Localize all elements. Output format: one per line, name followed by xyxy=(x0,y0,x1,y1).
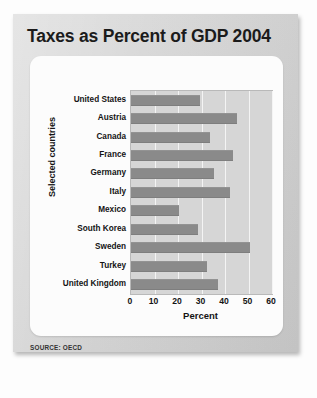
bar xyxy=(131,132,210,143)
bar-series xyxy=(131,91,272,294)
x-tick-label-40: 40 xyxy=(219,296,229,306)
bar xyxy=(131,95,200,106)
bar-row xyxy=(131,165,272,183)
gridline-60 xyxy=(272,91,273,294)
category-label: United Kingdom xyxy=(58,274,126,292)
bar xyxy=(131,150,233,161)
page-title: Taxes as Percent of GDP 2004 xyxy=(27,26,271,47)
scanned-page: Taxes as Percent of GDP 2004 Selected co… xyxy=(0,0,317,398)
plot-area xyxy=(130,90,273,295)
category-label: France xyxy=(58,145,126,163)
bar-row xyxy=(131,220,272,238)
x-tick-label-0: 0 xyxy=(128,296,133,306)
bar xyxy=(131,279,218,290)
category-label: Mexico xyxy=(58,201,126,219)
bar-row xyxy=(131,183,272,201)
bar xyxy=(131,187,230,198)
chart-card: Selected countries United StatesAustriaC… xyxy=(30,56,283,336)
category-label: Sweden xyxy=(58,238,126,256)
x-tick-label-10: 10 xyxy=(149,296,159,306)
x-tick-label-30: 30 xyxy=(196,296,206,306)
bar xyxy=(131,205,179,216)
bar-row xyxy=(131,91,272,109)
x-axis-title: Percent xyxy=(130,310,271,321)
bar xyxy=(131,168,214,179)
bar-row xyxy=(131,239,272,257)
x-tick-label-60: 60 xyxy=(266,296,276,306)
category-label: Germany xyxy=(58,164,126,182)
category-labels: United StatesAustriaCanadaFranceGermanyI… xyxy=(58,90,126,293)
source-note: SOURCE: OECD xyxy=(30,344,82,351)
x-tick-label-50: 50 xyxy=(243,296,253,306)
x-axis-ticks: 0102030405060 xyxy=(130,296,271,310)
figure-panel: Taxes as Percent of GDP 2004 Selected co… xyxy=(13,14,298,352)
bar-row xyxy=(131,128,272,146)
category-label: United States xyxy=(58,90,126,108)
category-label: Turkey xyxy=(58,256,126,274)
bar xyxy=(131,242,250,253)
category-label: South Korea xyxy=(58,219,126,237)
category-label: Austria xyxy=(58,108,126,126)
y-axis-title: Selected countries xyxy=(47,87,57,227)
bar-row xyxy=(131,202,272,220)
category-label: Canada xyxy=(58,127,126,145)
bar-row xyxy=(131,146,272,164)
x-tick-label-20: 20 xyxy=(172,296,182,306)
bar xyxy=(131,224,198,235)
bar-row xyxy=(131,275,272,293)
bar-row xyxy=(131,109,272,127)
bar-row xyxy=(131,257,272,275)
category-label: Italy xyxy=(58,182,126,200)
bar xyxy=(131,113,237,124)
bar xyxy=(131,261,207,272)
